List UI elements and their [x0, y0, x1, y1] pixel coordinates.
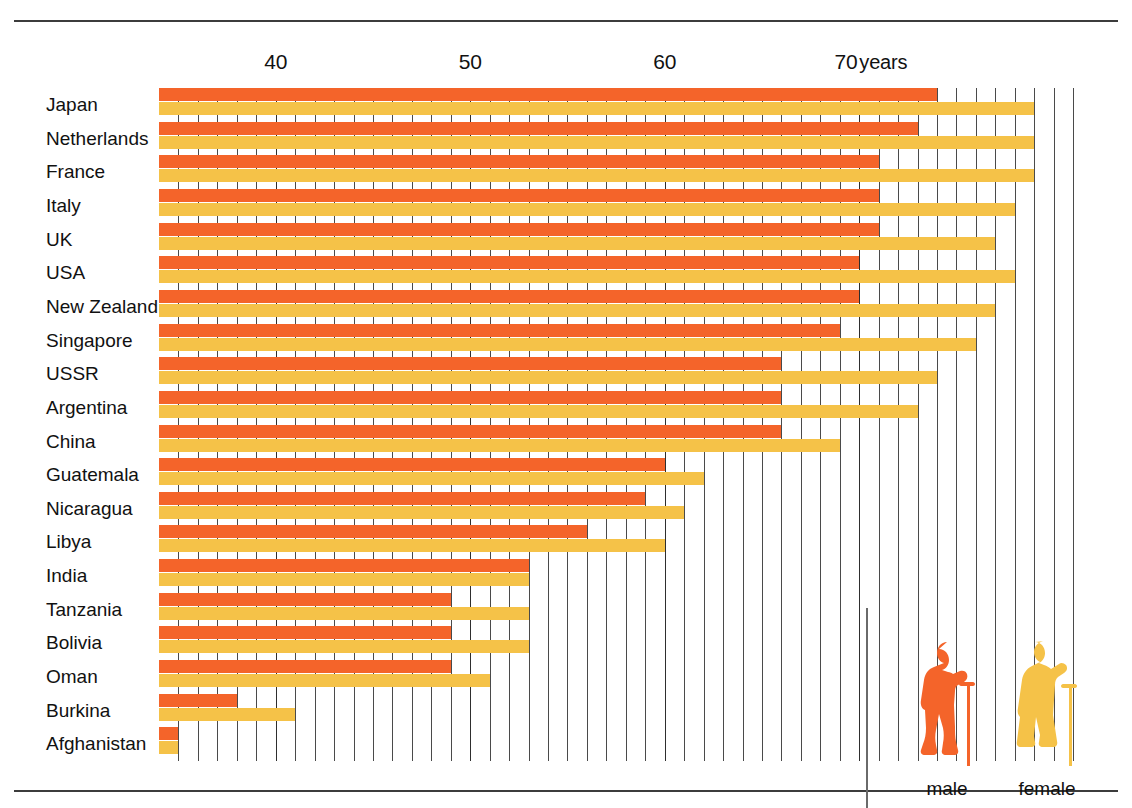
country-label: Singapore — [0, 331, 140, 351]
bar-female — [159, 338, 976, 351]
bar-female — [159, 573, 529, 586]
x-axis-tick-labels: 40506070years — [159, 50, 1119, 84]
x-axis-tick-label: 40 — [264, 50, 287, 74]
country-label: Libya — [0, 532, 140, 552]
country-label: Bolivia — [0, 633, 140, 653]
bar-row — [159, 256, 1092, 290]
legend-label-male: male — [892, 778, 1002, 800]
country-label: Tanzania — [0, 600, 140, 620]
country-label: New Zealand — [0, 297, 140, 317]
bar-row — [159, 525, 1092, 559]
bar-female — [159, 640, 529, 653]
elderly-woman-with-cane-icon — [992, 636, 1102, 766]
chart-page: 40506070years JapanNetherlandsFranceItal… — [0, 0, 1132, 808]
bar-female — [159, 607, 529, 620]
bar-male — [159, 324, 840, 337]
bar-female — [159, 203, 1015, 216]
country-label: China — [0, 432, 140, 452]
x-axis-tick-label: 70years — [834, 50, 907, 74]
country-label: Nicaragua — [0, 499, 140, 519]
country-label: Argentina — [0, 398, 140, 418]
bar-male — [159, 189, 879, 202]
bar-male — [159, 391, 781, 404]
legend-item-male: male — [892, 636, 1002, 808]
top-divider-rule — [14, 20, 1118, 22]
legend-label-female: female — [992, 778, 1102, 800]
bar-row — [159, 357, 1092, 391]
x-axis-unit-label: years — [859, 51, 907, 73]
country-label-column: JapanNetherlandsFranceItalyUKUSANew Zeal… — [0, 88, 150, 761]
bar-male — [159, 660, 451, 673]
country-label: Oman — [0, 667, 140, 687]
bar-male — [159, 559, 529, 572]
bar-male — [159, 492, 645, 505]
bar-male — [159, 290, 859, 303]
bar-male — [159, 694, 237, 707]
bar-male — [159, 357, 781, 370]
bar-female — [159, 102, 1034, 115]
country-label: Afghanistan — [0, 734, 140, 754]
bar-row — [159, 492, 1092, 526]
bar-female — [159, 405, 918, 418]
country-label: Burkina — [0, 701, 140, 721]
country-label: Netherlands — [0, 129, 140, 149]
bar-row — [159, 189, 1092, 223]
bar-row — [159, 324, 1092, 358]
country-label: India — [0, 566, 140, 586]
bar-male — [159, 425, 781, 438]
elderly-man-with-cane-icon — [892, 636, 1002, 766]
bar-male — [159, 155, 879, 168]
bar-row — [159, 88, 1092, 122]
bar-male — [159, 122, 918, 135]
bar-female — [159, 539, 665, 552]
bar-female — [159, 708, 295, 721]
bar-female — [159, 270, 1015, 283]
bar-male — [159, 593, 451, 606]
bar-female — [159, 169, 1034, 182]
bar-row — [159, 391, 1092, 425]
bar-row — [159, 290, 1092, 324]
chart-legend: male female — [866, 636, 1102, 808]
country-label: Italy — [0, 196, 140, 216]
bar-row — [159, 223, 1092, 257]
bar-row — [159, 425, 1092, 459]
country-label: UK — [0, 230, 140, 250]
country-label: USSR — [0, 364, 140, 384]
bar-female — [159, 741, 178, 754]
bar-row — [159, 593, 1092, 627]
bar-male — [159, 223, 879, 236]
bar-male — [159, 727, 178, 740]
bar-male — [159, 256, 859, 269]
x-axis-tick-label: 50 — [459, 50, 482, 74]
bar-female — [159, 136, 1034, 149]
bar-male — [159, 458, 665, 471]
bar-row — [159, 559, 1092, 593]
bar-female — [159, 472, 704, 485]
bar-female — [159, 237, 995, 250]
country-label: France — [0, 162, 140, 182]
x-axis-tick-label: 60 — [653, 50, 676, 74]
country-label: Japan — [0, 95, 140, 115]
bar-row — [159, 122, 1092, 156]
country-label: Guatemala — [0, 465, 140, 485]
bar-male — [159, 525, 587, 538]
legend-item-female: female — [992, 636, 1102, 808]
bar-female — [159, 506, 684, 519]
bar-female — [159, 439, 840, 452]
life-expectancy-chart: 40506070years JapanNetherlandsFranceItal… — [0, 40, 1132, 780]
bar-female — [159, 371, 937, 384]
country-label: USA — [0, 263, 140, 283]
bar-male — [159, 88, 937, 101]
bar-row — [159, 155, 1092, 189]
bar-row — [159, 458, 1092, 492]
legend-divider — [866, 608, 868, 808]
bar-female — [159, 674, 490, 687]
bar-female — [159, 304, 995, 317]
bar-male — [159, 626, 451, 639]
